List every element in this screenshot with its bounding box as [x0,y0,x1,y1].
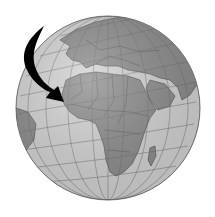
globe-illustration [0,0,215,217]
globe-shading [16,16,200,200]
